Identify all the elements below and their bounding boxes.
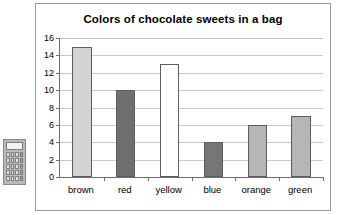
y-axis-tick-label: 2 (49, 155, 54, 165)
calculator-key (11, 164, 15, 169)
y-axis-tick-label: 6 (49, 120, 54, 130)
bar-green (291, 116, 310, 177)
calculator-key (6, 170, 10, 175)
y-axis-tick (56, 125, 60, 126)
gridline (60, 55, 323, 56)
calculator-key (6, 152, 10, 157)
x-axis-labels: brownredyellowblueorangegreen (59, 184, 322, 202)
calculator-key (15, 152, 19, 157)
bar-yellow (160, 64, 179, 177)
bar-blue (204, 142, 223, 177)
y-axis-tick (56, 73, 60, 74)
x-axis-tick (235, 177, 236, 181)
gridline (60, 142, 323, 143)
y-axis-tick-label: 10 (44, 85, 54, 95)
bar-red (116, 90, 135, 177)
x-axis-tick (192, 177, 193, 181)
y-axis-tick (56, 142, 60, 143)
x-axis-label-red: red (118, 184, 132, 195)
y-axis-tick (56, 160, 60, 161)
calculator-key (20, 158, 24, 163)
chart-title: Colors of chocolate sweets in a bag (36, 13, 330, 25)
plot-area: 0246810121416 (59, 38, 323, 178)
calculator-key (11, 158, 15, 163)
calculator-key (11, 176, 15, 181)
y-axis-tick (56, 90, 60, 91)
gridline (60, 73, 323, 74)
gridline (60, 125, 323, 126)
y-axis-tick-label: 4 (49, 137, 54, 147)
x-axis-tick (148, 177, 149, 181)
x-axis-label-blue: blue (203, 184, 221, 195)
y-axis-tick (56, 55, 60, 56)
y-axis-tick (56, 38, 60, 39)
calculator-key (6, 158, 10, 163)
x-axis-tick (323, 177, 324, 181)
x-axis-label-orange: orange (241, 184, 271, 195)
calculator-key (20, 152, 24, 157)
calculator-key (20, 170, 24, 175)
calculator-key (15, 158, 19, 163)
y-axis-tick-label: 16 (44, 33, 54, 43)
x-axis-tick (279, 177, 280, 181)
y-axis-tick-label: 14 (44, 50, 54, 60)
calculator-key (15, 170, 19, 175)
chart-container: Colors of chocolate sweets in a bag 0246… (35, 3, 331, 211)
y-axis-tick-label: 12 (44, 68, 54, 78)
calculator-key (20, 164, 24, 169)
calculator-key (15, 164, 19, 169)
gridline (60, 160, 323, 161)
x-axis-label-brown: brown (68, 184, 94, 195)
gridline (60, 90, 323, 91)
calculator-display (6, 142, 23, 150)
calculator-icon (3, 139, 26, 185)
calculator-key (15, 176, 19, 181)
calculator-key (6, 164, 10, 169)
bar-brown (72, 47, 91, 177)
calculator-key (20, 176, 24, 181)
calculator-key (6, 176, 10, 181)
y-axis-tick (56, 108, 60, 109)
gridline (60, 108, 323, 109)
y-axis-tick-label: 0 (49, 172, 54, 182)
x-axis-label-green: green (288, 184, 312, 195)
y-axis-tick (56, 177, 60, 178)
calculator-keypad (6, 152, 23, 181)
y-axis-tick-label: 8 (49, 103, 54, 113)
x-axis-tick (104, 177, 105, 181)
bar-orange (248, 125, 267, 177)
x-axis-label-yellow: yellow (155, 184, 181, 195)
gridline (60, 38, 323, 39)
calculator-key (11, 170, 15, 175)
calculator-key (11, 152, 15, 157)
